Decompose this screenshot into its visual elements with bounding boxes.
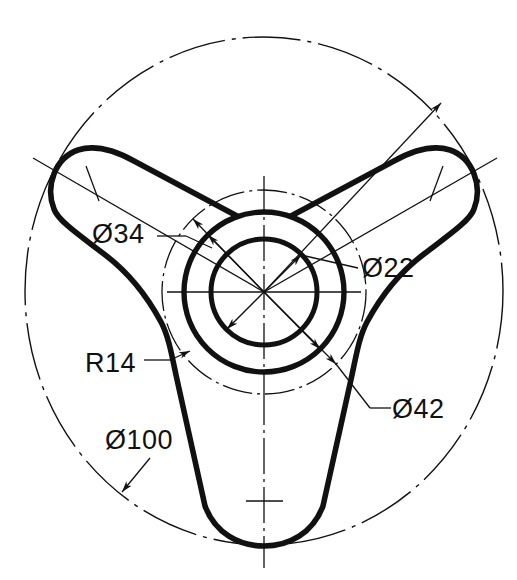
label-r14: R14	[85, 348, 136, 378]
label-dia22: Ø22	[362, 253, 415, 283]
drawing-svg: Ø34 Ø22 R14 Ø42 Ø100	[0, 0, 517, 580]
leader-dia100	[122, 458, 150, 492]
technical-drawing-canvas: Ø34 Ø22 R14 Ø42 Ø100	[0, 0, 517, 580]
label-dia100: Ø100	[105, 425, 173, 455]
label-dia42: Ø42	[392, 394, 445, 424]
label-dia34: Ø34	[92, 219, 145, 249]
